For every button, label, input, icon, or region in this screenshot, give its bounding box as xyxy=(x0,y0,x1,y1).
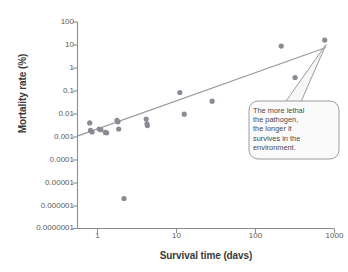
annotation-line: The more lethal xyxy=(253,106,335,115)
data-point-outlier xyxy=(121,196,126,201)
y-tick-label: 0.0001 xyxy=(6,155,74,164)
x-tick-label: 100 xyxy=(236,231,276,240)
x-tick-label: 1000 xyxy=(315,231,348,240)
data-point xyxy=(182,112,187,117)
annotation-line: the pathogen, xyxy=(253,115,335,124)
data-point xyxy=(90,129,95,134)
annotation-line: the longer it xyxy=(253,124,335,133)
data-point xyxy=(104,130,109,135)
y-tick-label: 100 xyxy=(6,17,74,26)
data-point xyxy=(177,90,182,95)
x-axis-ticks xyxy=(98,229,335,234)
data-point xyxy=(144,117,149,122)
data-point xyxy=(293,75,298,80)
y-axis-tick-labels: 100 10 1 0.1 0.01 0.001 0.0001 0.00001 0… xyxy=(0,0,74,272)
y-tick-label: 0.00001 xyxy=(6,178,74,187)
data-point xyxy=(98,127,103,132)
data-point xyxy=(145,123,150,128)
x-axis-title: Survival time (davs) xyxy=(77,250,335,261)
y-tick-label: 0.000001 xyxy=(6,201,74,210)
data-point xyxy=(322,38,327,43)
annotation-callout-text: The more lethal the pathogen, the longer… xyxy=(253,106,335,152)
x-tick-label: 10 xyxy=(157,231,197,240)
annotation-line: environment. xyxy=(253,143,335,152)
data-point xyxy=(210,99,215,104)
data-point xyxy=(115,119,120,124)
data-point xyxy=(279,44,284,49)
y-tick-label: 0.0000001 xyxy=(6,223,74,232)
data-point xyxy=(87,120,92,125)
y-axis-title: Mortality rate (%) xyxy=(17,34,28,154)
annotation-line: survives in the xyxy=(253,134,335,143)
x-tick-label: 1 xyxy=(78,231,118,240)
callout-tail xyxy=(284,45,326,105)
data-point xyxy=(116,126,121,131)
